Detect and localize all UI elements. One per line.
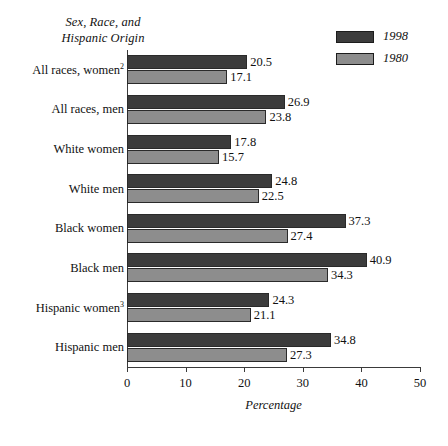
x-axis-tick-label: 50 [414,376,427,391]
bar-value-label: 34.8 [334,333,356,347]
bar-value-label: 27.4 [291,229,313,243]
category-label: White men [0,182,124,196]
bar-group: 26.923.8 [127,95,420,124]
x-axis-tick [127,367,128,372]
bar-value-label: 20.5 [250,55,272,69]
x-axis-tick-label: 30 [297,376,310,391]
x-axis-tick-label: 20 [238,376,251,391]
bar-1980-black-men [127,268,328,282]
bar-value-label: 24.8 [275,174,297,188]
x-axis-title: Percentage [127,398,420,413]
bar-value-label: 40.9 [370,253,392,267]
bar-value-label: 37.3 [349,214,371,228]
x-axis-tick-label: 0 [124,376,130,391]
bar-1980-all-races-women [127,70,227,84]
category-label: Black women [0,221,124,235]
bar-group: 37.327.4 [127,214,420,243]
bar-chart: Sex, Race, and Hispanic Origin 1998 1980… [0,0,448,446]
bar-value-label: 15.7 [222,150,244,164]
bar-1980-hispanic-men [127,348,287,362]
legend-item-1998: 1998 [336,28,408,45]
category-label: Black men [0,261,124,275]
bar-value-label: 22.5 [262,189,284,203]
category-label: White women [0,142,124,156]
bar-value-label: 17.1 [230,70,252,84]
bar-1980-hispanic-women [127,308,251,322]
category-footnote-marker: 3 [120,299,124,308]
bar-value-label: 21.1 [254,308,276,322]
bar-1980-white-women [127,150,219,164]
x-axis-tick [303,367,304,372]
bar-group: 20.517.1 [127,55,420,84]
bar-value-label: 17.8 [234,135,256,149]
category-label: All races, men [0,102,124,116]
x-axis-tick-label: 40 [355,376,368,391]
chart-title-line-1: Sex, Race, and [28,14,178,30]
bar-1998-hispanic-men [127,333,331,347]
bar-group: 24.321.1 [127,293,420,322]
x-axis-tick [186,367,187,372]
bar-group: 24.822.5 [127,174,420,203]
bar-group: 34.827.3 [127,333,420,362]
bar-1980-all-races-men [127,110,266,124]
chart-title-line-2: Hispanic Origin [28,30,178,46]
bar-1980-white-men [127,189,259,203]
bar-1998-black-women [127,214,346,228]
bar-value-label: 24.3 [272,293,294,307]
chart-title: Sex, Race, and Hispanic Origin [28,14,178,46]
bar-1998-all-races-men [127,95,285,109]
legend-swatch-1998 [336,31,374,43]
category-axis: All races, women2All races, menWhite wom… [0,50,124,367]
bar-1998-black-men [127,253,367,267]
category-footnote-marker: 2 [120,62,124,71]
x-axis-tick [361,367,362,372]
legend-label-1998: 1998 [383,30,408,43]
bar-1980-black-women [127,229,288,243]
category-label: All races, women2 [0,63,124,77]
bar-1998-all-races-women [127,55,247,69]
category-label: Hispanic men [0,340,124,354]
bar-group: 40.934.3 [127,253,420,282]
bar-1998-hispanic-women [127,293,269,307]
x-axis-line [127,367,420,368]
bar-1998-white-men [127,174,272,188]
x-axis-tick [244,367,245,372]
plot-area: 0102030405020.517.126.923.817.815.724.82… [127,50,420,367]
bar-group: 17.815.7 [127,135,420,164]
bar-value-label: 34.3 [331,268,353,282]
category-label: Hispanic women3 [0,301,124,315]
x-axis-tick-label: 10 [179,376,192,391]
bar-value-label: 26.9 [288,95,310,109]
x-axis-tick [420,367,421,372]
bar-value-label: 23.8 [269,110,291,124]
bar-1998-white-women [127,135,231,149]
bar-value-label: 27.3 [290,348,312,362]
